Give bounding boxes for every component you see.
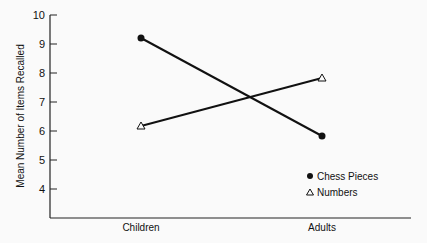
legend: Chess Pieces Numbers <box>307 171 379 198</box>
y-tick-label: 6 <box>39 125 45 137</box>
numbers-line <box>141 78 322 126</box>
numbers-point-adults <box>318 74 326 81</box>
y-tick-label: 7 <box>39 96 45 108</box>
chess-pieces-point-children <box>138 35 145 42</box>
legend-label-numbers: Numbers <box>317 187 358 198</box>
y-tick-label: 5 <box>39 154 45 166</box>
x-label-adults: Adults <box>308 222 336 233</box>
y-tick-label: 8 <box>39 67 45 79</box>
y-tick-labels: 10 9 8 7 6 5 4 <box>33 9 45 195</box>
chess-pieces-line <box>141 38 322 136</box>
legend-triangle-icon <box>307 189 314 195</box>
y-tick-label: 9 <box>39 38 45 50</box>
y-tick-label: 4 <box>39 183 45 195</box>
legend-filled-circle-icon <box>307 173 313 179</box>
y-tick-label: 10 <box>33 9 45 21</box>
y-ticks <box>50 15 57 189</box>
chess-pieces-point-adults <box>319 133 326 140</box>
legend-label-chess: Chess Pieces <box>317 171 378 182</box>
x-label-children: Children <box>122 222 159 233</box>
line-chart: 10 9 8 7 6 5 4 Mean Number of Items Reca… <box>0 0 427 243</box>
y-axis-label: Mean Number of Items Recalled <box>15 44 26 187</box>
